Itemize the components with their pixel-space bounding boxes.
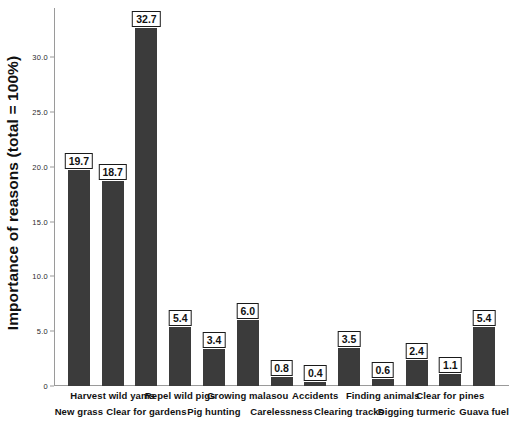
x-tick-label: New grass [55, 406, 103, 417]
y-tick-label: 0 [10, 382, 48, 391]
bar-value-label: 0.6 [371, 362, 394, 378]
x-tick-label: Clear for pines [416, 390, 484, 401]
bar [271, 377, 293, 386]
plot-area: 05.010.015.020.025.030.0 19.718.732.75.4… [54, 8, 509, 386]
x-tick-label: Clear for gardens [106, 406, 186, 417]
bar [102, 181, 124, 386]
bar [203, 349, 225, 386]
x-tick-label: Growing malasou [207, 390, 288, 401]
x-tick-label: Accidents [292, 390, 338, 401]
y-tick-label: 25.0 [10, 108, 48, 117]
bar [372, 379, 394, 386]
bar [68, 170, 90, 386]
y-tick-mark [50, 386, 54, 387]
y-axis-title-text: Importance of reasons (total = 100%) [4, 56, 22, 331]
bar-value-label: 3.5 [338, 331, 361, 347]
bar-value-label: 5.4 [473, 310, 496, 326]
y-tick-label: 30.0 [10, 53, 48, 62]
y-tick-mark [50, 112, 54, 113]
x-tick-label: Digging turmeric [378, 406, 456, 417]
bar-value-label: 2.4 [405, 343, 428, 359]
bar-value-label: 1.1 [439, 357, 462, 373]
bar-value-label: 19.7 [65, 153, 93, 169]
bar-value-label: 0.8 [270, 360, 293, 376]
bar-value-label: 5.4 [169, 310, 192, 326]
bar [439, 374, 461, 386]
bar-value-label: 0.4 [304, 365, 327, 381]
bar-value-label: 18.7 [98, 164, 126, 180]
bar-value-label: 6.0 [236, 303, 259, 319]
bar [338, 348, 360, 386]
y-tick-label: 20.0 [10, 162, 48, 171]
x-tick-label: Harvest wild yams [70, 390, 155, 401]
y-tick-label: 5.0 [10, 327, 48, 336]
y-tick-mark [50, 57, 54, 58]
x-tick-label: Finding animals [346, 390, 420, 401]
y-tick-mark [50, 276, 54, 277]
x-tick-label: Guava fuel [459, 406, 509, 417]
bar [304, 382, 326, 386]
y-axis-line [54, 8, 55, 386]
y-tick-label: 10.0 [10, 272, 48, 281]
x-tick-label: Carelessness [250, 406, 312, 417]
y-tick-label: 15.0 [10, 217, 48, 226]
bar-chart-figure: Importance of reasons (total = 100%) 05.… [0, 0, 516, 431]
y-tick-mark [50, 331, 54, 332]
bar [473, 327, 495, 386]
bar-value-label: 3.4 [203, 332, 226, 348]
x-tick-label: Clearing tracks [314, 406, 384, 417]
bar [135, 28, 157, 386]
x-tick-label: Pig hunting [187, 406, 240, 417]
bar [406, 360, 428, 386]
x-tick-label: Repel wild pigs [145, 390, 216, 401]
bar [169, 327, 191, 386]
bar [237, 320, 259, 386]
bar-value-label: 32.7 [132, 11, 160, 27]
y-tick-mark [50, 221, 54, 222]
y-tick-mark [50, 166, 54, 167]
